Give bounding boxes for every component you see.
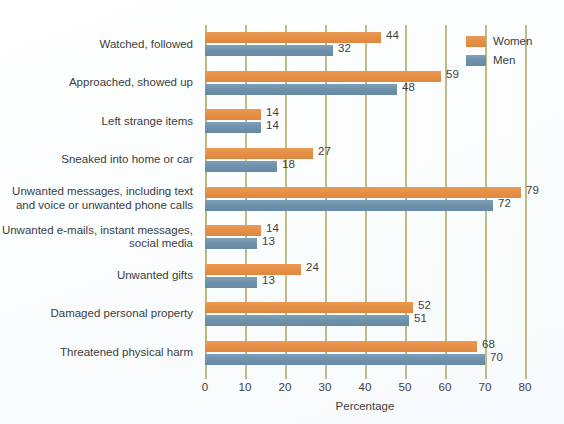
bar-value-label: 79 [526, 184, 539, 196]
bar-women [205, 148, 313, 159]
bar-value-label: 32 [338, 42, 351, 54]
bar-women [205, 109, 261, 120]
category-label: Unwanted messages, including text and vo… [0, 185, 199, 212]
x-tick-label-30: 30 [319, 381, 332, 393]
category-label: Unwanted gifts [0, 269, 199, 283]
bar-women [205, 32, 381, 43]
bar-row: 13 [205, 277, 525, 288]
category-label: Threatened physical harm [0, 346, 199, 360]
bar-row: 48 [205, 84, 525, 95]
category-label: Unwanted e-mails, instant messages, soci… [0, 224, 199, 251]
bar-group: 1413 [205, 225, 525, 249]
bar-men [205, 161, 277, 172]
bar-men [205, 238, 257, 249]
bar-row: 14 [205, 122, 525, 133]
legend-label: Women [493, 35, 532, 47]
bar-chart: Watched, followedApproached, showed upLe… [0, 0, 564, 424]
tick-mark-20 [285, 372, 287, 379]
tick-mark-10 [245, 372, 247, 379]
bar-row: 14 [205, 109, 525, 120]
bar-group: 6870 [205, 341, 525, 365]
bar-value-label: 14 [266, 119, 279, 131]
category-label: Left strange items [0, 115, 199, 129]
bar-women [205, 264, 301, 275]
legend-item-men[interactable]: Men [466, 52, 532, 68]
bar-value-label: 51 [414, 312, 427, 324]
plot-area: 443259481414271879721413241352516870 [205, 25, 525, 372]
bar-men [205, 84, 397, 95]
category-label: Watched, followed [0, 38, 199, 52]
bar-row: 72 [205, 200, 525, 211]
bar-women [205, 187, 521, 198]
legend-swatch-icon [466, 36, 486, 47]
legend-label: Men [493, 54, 515, 66]
bar-row: 18 [205, 161, 525, 172]
x-tick-label-20: 20 [279, 381, 292, 393]
x-tick-label-40: 40 [359, 381, 372, 393]
tick-mark-60 [445, 372, 447, 379]
bar-men [205, 277, 257, 288]
bar-value-label: 13 [262, 235, 275, 247]
x-tick-label-80: 80 [519, 381, 532, 393]
bar-men [205, 354, 485, 365]
chart-legend: WomenMen [466, 33, 532, 71]
bar-row: 13 [205, 238, 525, 249]
x-tick-label-10: 10 [239, 381, 252, 393]
bar-group: 5251 [205, 302, 525, 326]
category-label: Sneaked into home or car [0, 153, 199, 167]
bar-value-label: 68 [482, 338, 495, 350]
bar-row: 51 [205, 315, 525, 326]
bar-row: 70 [205, 354, 525, 365]
legend-swatch-icon [466, 55, 486, 66]
x-axis: 01020304050607080 Percentage [205, 372, 525, 412]
bar-value-label: 72 [498, 197, 511, 209]
bar-group: 7972 [205, 187, 525, 211]
bar-women [205, 302, 413, 313]
tick-mark-40 [365, 372, 367, 379]
bar-value-label: 24 [306, 261, 319, 273]
category-label: Approached, showed up [0, 76, 199, 90]
bar-row: 59 [205, 71, 525, 82]
bar-women [205, 341, 477, 352]
bar-group: 5948 [205, 71, 525, 95]
tick-mark-50 [405, 372, 407, 379]
tick-mark-0 [205, 372, 207, 379]
bar-group: 2413 [205, 264, 525, 288]
bar-value-label: 13 [262, 274, 275, 286]
x-tick-label-70: 70 [479, 381, 492, 393]
x-tick-label-50: 50 [399, 381, 412, 393]
gridline-80 [525, 25, 527, 372]
tick-mark-80 [525, 372, 527, 379]
x-tick-label-60: 60 [439, 381, 452, 393]
tick-mark-30 [325, 372, 327, 379]
bar-value-label: 14 [266, 106, 279, 118]
x-tick-label-0: 0 [202, 381, 208, 393]
x-axis-title: Percentage [205, 400, 525, 412]
bar-row: 79 [205, 187, 525, 198]
bar-row: 27 [205, 148, 525, 159]
bar-men [205, 315, 409, 326]
bar-value-label: 27 [318, 145, 331, 157]
bar-row: 14 [205, 225, 525, 236]
bar-value-label: 14 [266, 222, 279, 234]
tick-mark-70 [485, 372, 487, 379]
bar-row: 52 [205, 302, 525, 313]
category-label: Damaged personal property [0, 307, 199, 321]
bar-row: 68 [205, 341, 525, 352]
bar-row: 24 [205, 264, 525, 275]
legend-item-women[interactable]: Women [466, 33, 532, 49]
bar-value-label: 48 [402, 81, 415, 93]
category-axis-labels: Watched, followedApproached, showed upLe… [0, 25, 199, 372]
bar-men [205, 200, 493, 211]
bar-group: 2718 [205, 148, 525, 172]
bar-value-label: 18 [282, 158, 295, 170]
bar-value-label: 59 [446, 68, 459, 80]
bar-group: 1414 [205, 109, 525, 133]
bar-women [205, 225, 261, 236]
bar-value-label: 70 [490, 351, 503, 363]
bar-men [205, 122, 261, 133]
bar-men [205, 45, 333, 56]
bar-value-label: 44 [386, 29, 399, 41]
bar-value-label: 52 [418, 299, 431, 311]
